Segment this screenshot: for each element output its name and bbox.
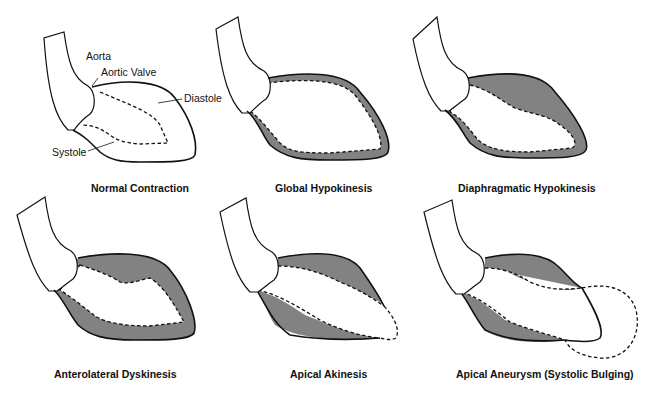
caption-apical-aneurysm: Apical Aneurysm (Systolic Bulging) [456,368,634,380]
label-systole: Systole [52,146,87,158]
systole-outline [82,92,168,144]
panel-normal-contraction: Aorta Aortic Valve Diastole Systole Norm… [44,32,222,194]
caption-normal-contraction: Normal Contraction [91,182,189,194]
panel-apical-akinesis: Apical Akinesis [220,198,397,380]
panel-diaphragmatic-hypokinesis: Diaphragmatic Hypokinesis [413,17,596,194]
label-aorta: Aorta [86,50,111,62]
lv-wall-motion-diagram: Aorta Aortic Valve Diastole Systole Norm… [0,0,654,395]
caption-anterolateral-dyskinesis: Anterolateral Dyskinesis [54,368,177,380]
caption-global-hypokinesis: Global Hypokinesis [275,182,373,194]
systolic-bulge-outline [565,286,637,358]
aorta-icon [44,32,94,130]
caption-diaphragmatic-hypokinesis: Diaphragmatic Hypokinesis [458,182,596,194]
panel-anterolateral-dyskinesis: Anterolateral Dyskinesis [17,197,195,380]
caption-apical-akinesis: Apical Akinesis [290,368,367,380]
label-aortic-valve: Aortic Valve [101,66,156,78]
panel-apical-aneurysm: Apical Aneurysm (Systolic Bulging) [424,200,637,380]
label-diastole: Diastole [184,92,222,104]
panel-global-hypokinesis: Global Hypokinesis [216,17,389,194]
